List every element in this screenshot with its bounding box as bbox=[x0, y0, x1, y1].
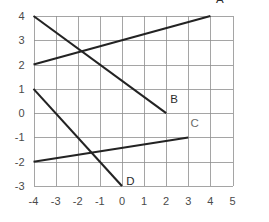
x-tick-label: 0 bbox=[119, 195, 125, 207]
data-series-lines bbox=[34, 16, 211, 186]
x-tick-label: 3 bbox=[185, 195, 191, 207]
plot-area: ABCD -4-3-2-1012345 43210-1-2-3 bbox=[0, 0, 269, 222]
y-axis-tick-labels: 43210-1-2-3 bbox=[15, 10, 25, 192]
data-line-b bbox=[34, 16, 167, 113]
x-tick-label: -4 bbox=[29, 195, 39, 207]
horizontal-gridlines bbox=[34, 17, 233, 187]
x-tick-label: -1 bbox=[95, 195, 105, 207]
series-label-c: C bbox=[190, 117, 198, 129]
x-tick-label: 5 bbox=[229, 195, 235, 207]
y-tick-label: -3 bbox=[15, 180, 25, 192]
y-tick-label: 4 bbox=[18, 10, 24, 22]
y-tick-label: 1 bbox=[18, 83, 24, 95]
series-endpoint-labels: ABCD bbox=[126, 0, 224, 187]
y-tick-label: 2 bbox=[18, 59, 24, 71]
vertical-gridlines bbox=[35, 16, 234, 186]
x-tick-label: 2 bbox=[163, 195, 169, 207]
x-tick-label: 4 bbox=[207, 195, 213, 207]
y-tick-label: -2 bbox=[15, 156, 25, 168]
series-label-b: B bbox=[170, 93, 178, 105]
x-tick-label: -3 bbox=[51, 195, 61, 207]
y-tick-label: -1 bbox=[15, 131, 25, 143]
series-label-d: D bbox=[126, 175, 134, 187]
x-tick-label: 1 bbox=[141, 195, 147, 207]
x-axis-tick-labels: -4-3-2-1012345 bbox=[29, 195, 236, 207]
y-tick-label: 0 bbox=[18, 107, 24, 119]
line-graph-figure: ABCD -4-3-2-1012345 43210-1-2-3 bbox=[0, 0, 269, 222]
y-tick-label: 3 bbox=[18, 34, 24, 46]
x-tick-label: -2 bbox=[73, 195, 83, 207]
series-label-a: A bbox=[216, 0, 224, 5]
